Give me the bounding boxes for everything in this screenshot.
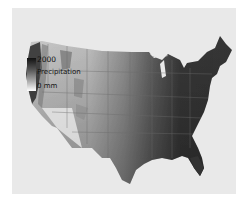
legend-color-bar (27, 58, 36, 91)
legend-title: Precipitation (37, 68, 81, 76)
legend: 2000 Precipitation 0 mm (27, 58, 107, 98)
legend-max-label: 2000 (37, 55, 56, 64)
map-panel: 2000 Precipitation 0 mm (12, 8, 236, 194)
precipitation-map (12, 8, 236, 194)
legend-min-label: 0 mm (37, 82, 57, 90)
